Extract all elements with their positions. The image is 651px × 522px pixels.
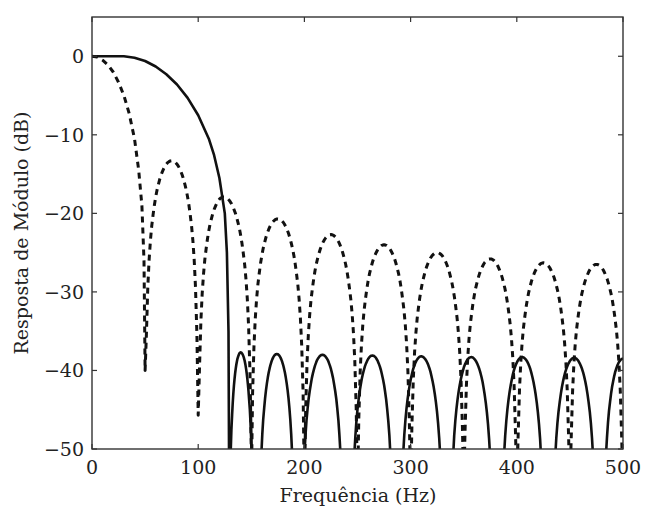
y-axis-label: Resposta de Módulo (dB)	[10, 112, 32, 355]
x-tick-label: 500	[605, 456, 641, 478]
x-tick-label: 400	[499, 456, 535, 478]
y-tick-label: −10	[44, 124, 84, 146]
x-tick-label: 200	[286, 456, 322, 478]
y-tick-label: −40	[44, 359, 84, 381]
y-tick-label: −50	[44, 438, 84, 460]
chart: 0100200300400500 0−10−20−30−40−50 Frequê…	[0, 0, 651, 522]
y-tick-label: −30	[44, 281, 84, 303]
x-tick-label: 300	[392, 456, 428, 478]
chart-background	[0, 0, 651, 522]
y-tick-label: 0	[72, 45, 84, 67]
x-tick-label: 100	[180, 456, 216, 478]
y-tick-label: −20	[44, 202, 84, 224]
x-tick-label: 0	[86, 456, 98, 478]
x-axis-label: Frequência (Hz)	[280, 484, 437, 506]
